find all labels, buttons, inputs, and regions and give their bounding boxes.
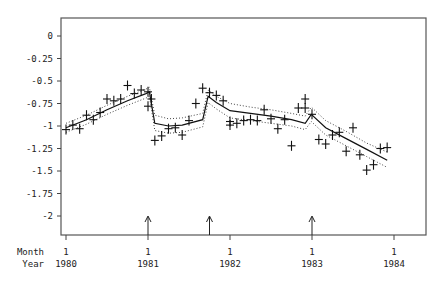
time-series-chart: 0-0.25-0.5-0.75-1-1.25-1.5-1.75-2 119801… — [0, 0, 444, 287]
plus-marker — [322, 139, 330, 149]
x-axis-title-month: Month — [17, 247, 44, 257]
plus-marker — [288, 141, 296, 151]
y-tick-label: -0.25 — [26, 54, 53, 64]
x-tick-year-label: 1983 — [301, 259, 323, 269]
plus-marker — [96, 108, 104, 118]
intervention-arrow-icon — [207, 216, 213, 235]
x-tick-month-label: 1 — [145, 247, 150, 257]
x-axis-title-year: Year — [22, 259, 44, 269]
plus-marker — [89, 115, 97, 125]
plus-marker — [147, 94, 155, 104]
x-tick-month-label: 1 — [391, 247, 396, 257]
y-tick-label: -1.5 — [31, 166, 53, 176]
plus-marker — [137, 85, 145, 95]
plot-frame — [61, 18, 426, 235]
plus-marker — [329, 130, 337, 140]
intervention-arrows — [145, 216, 315, 235]
plus-marker — [171, 123, 179, 133]
plus-marker — [212, 90, 220, 100]
plus-marker — [349, 123, 357, 133]
plus-marker — [103, 94, 111, 104]
plus-marker — [342, 146, 350, 156]
plus-marker — [281, 115, 289, 125]
plus-marker — [240, 116, 248, 126]
intervention-arrow-icon — [309, 216, 315, 235]
plus-marker — [76, 124, 84, 134]
plus-marker — [260, 105, 268, 115]
x-axis: 1198011981119821198311984 — [55, 235, 405, 269]
plus-marker — [363, 165, 371, 175]
x-tick-year-label: 1982 — [219, 259, 241, 269]
plus-marker — [233, 118, 241, 128]
plus-marker — [206, 88, 214, 98]
plus-marker — [301, 94, 309, 104]
y-tick-label: -2 — [42, 211, 53, 221]
y-tick-label: -1.25 — [26, 144, 53, 154]
plus-marker — [69, 120, 77, 130]
observed-points — [62, 81, 391, 176]
plus-marker — [356, 150, 364, 160]
plus-marker — [192, 99, 200, 109]
y-tick-label: -1 — [42, 121, 53, 131]
intervention-arrow-icon — [145, 216, 151, 235]
x-tick-month-label: 1 — [63, 247, 68, 257]
plus-marker — [274, 124, 282, 134]
x-tick-month-label: 1 — [309, 247, 314, 257]
plus-marker — [376, 144, 384, 154]
x-tick-year-label: 1984 — [383, 259, 405, 269]
plus-marker — [199, 83, 207, 93]
x-tick-month-label: 1 — [227, 247, 232, 257]
plus-marker — [253, 116, 261, 126]
plus-marker — [294, 103, 302, 113]
plus-marker — [370, 160, 378, 170]
plus-marker — [219, 96, 227, 106]
plus-marker — [301, 103, 309, 113]
plus-marker — [383, 143, 391, 153]
y-tick-label: 0 — [48, 31, 53, 41]
y-axis: 0-0.25-0.5-0.75-1-1.25-1.5-1.75-2 — [26, 31, 61, 221]
plus-marker — [151, 135, 159, 145]
y-tick-label: -0.75 — [26, 99, 53, 109]
x-tick-year-label: 1981 — [137, 259, 159, 269]
plus-marker — [110, 96, 118, 106]
plus-marker — [247, 115, 255, 125]
x-tick-year-label: 1980 — [55, 259, 77, 269]
plus-marker — [315, 135, 323, 145]
y-tick-label: -1.75 — [26, 189, 53, 199]
plus-marker — [124, 81, 132, 91]
y-tick-label: -0.5 — [31, 76, 53, 86]
